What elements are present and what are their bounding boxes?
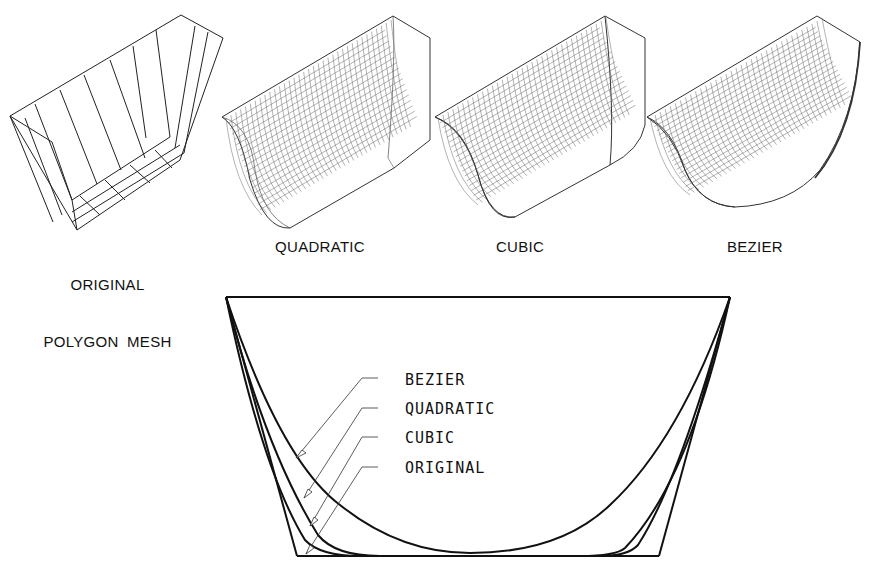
cross-section-diagram bbox=[0, 0, 876, 569]
leader-label-original: ORIGINAL bbox=[405, 459, 485, 477]
leader-label-cubic: CUBIC bbox=[405, 429, 455, 447]
leader-original bbox=[306, 467, 378, 554]
leader-label-quadratic: QUADRATIC bbox=[405, 400, 495, 418]
leader-cubic bbox=[310, 437, 378, 526]
leader-label-bezier: BEZIER bbox=[405, 371, 465, 389]
curve-cubic bbox=[226, 297, 730, 556]
leader-quadratic bbox=[304, 408, 378, 498]
leader-bezier bbox=[296, 378, 378, 458]
cross-section-curves bbox=[0, 0, 876, 569]
